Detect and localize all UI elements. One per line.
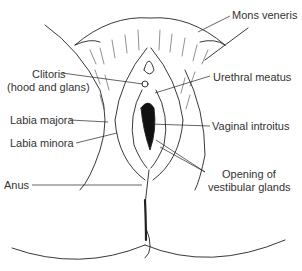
label-urethral-meatus: Urethral meatus: [213, 71, 291, 84]
label-vestibular-2: vestibular glands: [208, 181, 291, 194]
label-labia-minora: Labia minora: [10, 137, 74, 150]
label-vestibular-1: Opening of: [222, 168, 276, 181]
label-clitoris: Clitoris: [32, 68, 66, 81]
label-anus: Anus: [4, 179, 29, 192]
label-labia-majora: Labia majora: [10, 114, 74, 127]
label-mons-veneris: Mons veneris: [232, 9, 297, 22]
label-clitoris-sub: (hood and glans): [7, 81, 90, 94]
illustration: [0, 0, 302, 271]
label-vaginal-introitus: Vaginal introitus: [212, 120, 289, 133]
anatomy-diagram: Mons veneris Clitoris (hood and glans) U…: [0, 0, 302, 271]
